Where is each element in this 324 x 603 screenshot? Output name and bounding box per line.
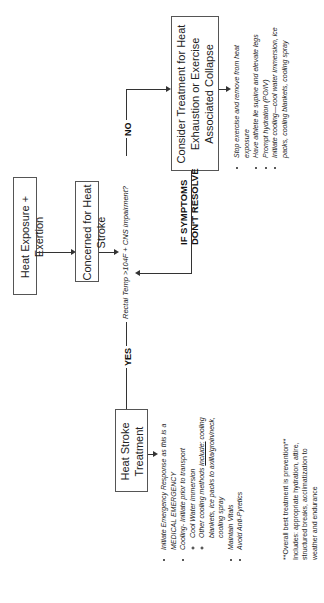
heat-stroke-step-text: Cooling- Initiate prior to transport bbox=[179, 448, 186, 550]
exhaustion-step: Prompt hydration (PO/IV) bbox=[261, 18, 271, 158]
prevention-note: **Overall best treatment is prevention**… bbox=[281, 425, 319, 560]
substep-prefix: Other cooling methods bbox=[198, 466, 205, 538]
if-symptoms-line2: DON'T RESOLVE bbox=[189, 185, 200, 245]
node-heat-exposure: Heat Exposure + Exertion bbox=[13, 177, 37, 295]
edge-label-if-symptoms: IF SYMPTOMS DON'T RESOLVE bbox=[178, 185, 200, 245]
exhaustion-step: Have athlete lie supine and elevate legs bbox=[251, 18, 261, 158]
node-exhaustion-label: Consider Treatment for Heat Exhaustion o… bbox=[174, 21, 216, 167]
substep-underline: include: bbox=[198, 441, 205, 465]
exhaustion-steps: Stop exercise and remove from heat expos… bbox=[232, 18, 289, 168]
prevention-note-body: Includes: appropriate hydration, attire,… bbox=[291, 425, 320, 560]
node-heat-exhaustion: Consider Treatment for Heat Exhaustion o… bbox=[171, 16, 219, 171]
heat-stroke-substep: Cool Water Immersion bbox=[188, 410, 198, 538]
edge-label-yes: YES bbox=[123, 346, 133, 368]
node-heat-stroke-treatment: Heat Stroke Treatment bbox=[115, 409, 148, 492]
feedback-line-horizontal bbox=[138, 273, 191, 274]
arrow-icon bbox=[114, 249, 119, 255]
question-label: Rectal Temp >104F + CNS impairment? bbox=[121, 156, 131, 322]
if-symptoms-line1: IF SYMPTOMS bbox=[178, 185, 189, 245]
heat-stroke-step: Maintain Vitals bbox=[226, 410, 236, 550]
heat-stroke-step: Cooling- Initiate prior to transport Coo… bbox=[178, 410, 226, 550]
edge-label-no: NO bbox=[123, 121, 133, 139]
connector-no bbox=[126, 89, 166, 90]
prevention-note-title: **Overall best treatment is prevention** bbox=[281, 425, 291, 560]
node-concerned-heat-stroke: Concerned for Heat Stroke bbox=[75, 181, 99, 282]
node-heat-exposure-label: Heat Exposure + Exertion bbox=[18, 182, 46, 292]
connector-concern-question bbox=[99, 252, 115, 253]
arrow-icon bbox=[135, 270, 140, 276]
heat-stroke-substep: Other cooling methods include: cooling b… bbox=[197, 410, 226, 538]
connector-start-concern bbox=[37, 252, 73, 253]
heat-stroke-step: Initiate Emergency Response as this is a… bbox=[159, 410, 178, 550]
heat-stroke-steps: Initiate Emergency Response as this is a… bbox=[159, 410, 245, 560]
exhaustion-step: Stop exercise and remove from heat expos… bbox=[232, 18, 251, 158]
node-heat-stroke-label: Heat Stroke Treatment bbox=[118, 414, 146, 489]
exhaustion-step: Initiate cooling—cool water immersion, i… bbox=[270, 18, 289, 158]
heat-stroke-step: Avoid Anti-Pyretics bbox=[235, 410, 245, 550]
arrow-icon bbox=[226, 86, 231, 92]
node-concerned-label: Concerned for Heat Stroke bbox=[80, 184, 108, 281]
arrow-icon bbox=[153, 451, 158, 457]
